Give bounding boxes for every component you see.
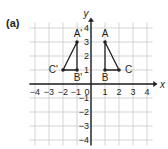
y-tick-label: 1 [84, 65, 89, 75]
y-tick-label: 3 [84, 37, 89, 47]
vertex-label: C' [49, 64, 58, 75]
vertex-point [61, 68, 65, 72]
y-tick-label: −4 [79, 135, 89, 145]
vertex-point [103, 40, 107, 44]
vertex-point [75, 40, 79, 44]
vertex-label: A' [74, 28, 83, 39]
y-tick-label: 4 [84, 23, 89, 33]
coordinate-grid-diagram: xy−4−3−2−1012344321−1−2−3−4 ABCA'B'C' [0, 0, 168, 149]
y-tick-label: −3 [79, 121, 89, 131]
x-tick-label: −4 [30, 87, 40, 97]
y-tick-label: −1 [79, 93, 89, 103]
y-axis-label: y [83, 8, 90, 19]
x-tick-label: 1 [102, 87, 107, 97]
x-tick-label: −3 [44, 87, 54, 97]
x-axis-label: x [159, 79, 166, 90]
vertex-label: B [102, 72, 109, 83]
vertex-label: C [125, 64, 132, 75]
vertex-point [117, 68, 121, 72]
x-tick-label: −2 [58, 87, 68, 97]
vertex-label: A [102, 28, 109, 39]
y-tick-label: 2 [84, 51, 89, 61]
vertex-label: B' [74, 72, 83, 83]
y-tick-label: −2 [79, 107, 89, 117]
x-tick-label: 3 [130, 87, 135, 97]
x-axis-arrow-icon [153, 81, 157, 87]
x-tick-label: 2 [116, 87, 121, 97]
y-axis-arrow-icon [88, 18, 94, 22]
x-tick-label: 4 [144, 87, 149, 97]
